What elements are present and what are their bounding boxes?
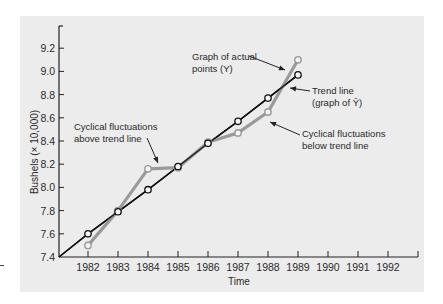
line-chart: 7.47.67.88.08.28.48.68.89.09.21982198319… bbox=[0, 0, 443, 304]
y-tick-label: 8.4 bbox=[40, 135, 55, 147]
y-tick-label: 8.6 bbox=[40, 112, 55, 124]
x-tick-label: 1992 bbox=[376, 261, 400, 273]
actual-line bbox=[88, 60, 298, 246]
x-tick-label: 1982 bbox=[76, 261, 100, 273]
actual-point bbox=[295, 57, 301, 63]
x-tick-label: 1985 bbox=[166, 261, 190, 273]
trend-point bbox=[115, 209, 121, 215]
y-tick-label: 8.0 bbox=[40, 181, 55, 193]
x-tick-label: 1990 bbox=[316, 261, 340, 273]
actual-point bbox=[235, 130, 241, 136]
y-tick-label: 7.4 bbox=[40, 251, 55, 263]
arrow-icon-head bbox=[290, 86, 296, 91]
y-tick-label: 9.2 bbox=[40, 42, 55, 54]
trend-point bbox=[85, 231, 91, 237]
y-tick-label: 9.0 bbox=[40, 65, 55, 77]
x-tick-label: 1984 bbox=[136, 261, 160, 273]
annotation-trend-line: (graph of Ŷ) bbox=[312, 97, 362, 108]
annotation-trend-line: Trend line bbox=[312, 85, 354, 96]
annotation-actual-points: Graph of actual bbox=[192, 51, 257, 62]
annotations: Graph of actualpoints (Y)Trend line(grap… bbox=[74, 51, 386, 163]
x-tick-label: 1983 bbox=[106, 261, 130, 273]
annotation-actual-points: points (Y) bbox=[192, 63, 233, 74]
series-group bbox=[59, 57, 301, 257]
y-tick-label: 8.2 bbox=[40, 158, 55, 170]
trend-point bbox=[235, 118, 241, 124]
annotation-below-trend: Cyclical fluctuations bbox=[302, 128, 386, 139]
trend-point bbox=[145, 187, 151, 193]
annotation-above-trend: above trend line bbox=[74, 133, 142, 144]
y-tick-label: 7.6 bbox=[40, 228, 55, 240]
y-tick-label: 8.8 bbox=[40, 89, 55, 101]
trend-point bbox=[175, 163, 181, 169]
y-axis-title: Bushels (× 10,000) bbox=[29, 110, 40, 194]
x-tick-label: 1986 bbox=[196, 261, 220, 273]
x-tick-label: 1989 bbox=[286, 261, 310, 273]
y-tick-label: 7.8 bbox=[40, 205, 55, 217]
arrow-icon-head bbox=[278, 65, 285, 70]
annotation-below-trend: below trend line bbox=[302, 140, 369, 151]
trend-point bbox=[265, 95, 271, 101]
x-tick-label: 1987 bbox=[226, 261, 250, 273]
actual-point bbox=[145, 166, 151, 172]
annotation-above-trend: Cyclical fluctuations bbox=[74, 121, 158, 132]
x-tick-label: 1988 bbox=[256, 261, 280, 273]
trend-point bbox=[295, 72, 301, 78]
margin-mark bbox=[0, 265, 4, 266]
x-tick-label: 1991 bbox=[346, 261, 370, 273]
trend-point bbox=[205, 140, 211, 146]
x-axis-title: Time bbox=[228, 276, 250, 287]
actual-point bbox=[265, 109, 271, 115]
actual-point bbox=[85, 242, 91, 248]
